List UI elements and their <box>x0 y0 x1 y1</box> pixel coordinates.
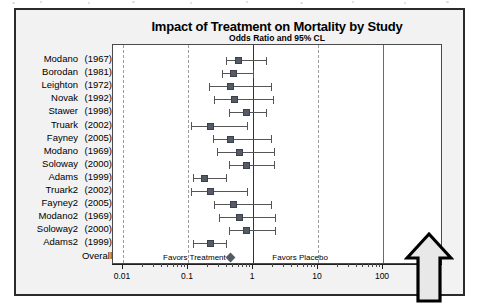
ci-cap-lower <box>229 227 230 235</box>
study-year: (2005) <box>78 196 112 209</box>
study-label: Novak(1992) <box>16 91 112 104</box>
x-axis-minor-tick <box>153 264 154 267</box>
forest-row <box>113 172 443 185</box>
point-estimate-marker <box>207 188 214 195</box>
x-axis-minor-tick <box>181 264 182 267</box>
forest-row <box>113 159 443 172</box>
ci-cap-upper <box>271 83 272 91</box>
ci-cap-upper <box>275 227 276 235</box>
x-axis-minor-tick <box>173 264 174 267</box>
x-axis-minor-tick <box>238 264 239 267</box>
confidence-interval-line <box>213 139 271 140</box>
confidence-interval-line <box>219 217 275 218</box>
top-edge-artifact <box>0 0 480 7</box>
ci-cap-lower <box>222 70 223 78</box>
confidence-interval-line <box>209 86 271 87</box>
x-axis-minor-tick <box>314 264 315 267</box>
x-axis-minor-tick <box>303 264 304 267</box>
study-name: Overall <box>82 249 112 262</box>
x-axis-tick-label: 100 <box>375 271 389 281</box>
study-year: (2002) <box>78 118 112 131</box>
point-estimate-marker <box>207 123 214 130</box>
x-axis-minor-tick <box>362 264 363 267</box>
ci-cap-lower <box>219 214 220 222</box>
speckle <box>352 1 354 3</box>
x-axis: 0.010.1110100 <box>112 264 442 286</box>
x-axis-minor-tick <box>307 264 308 267</box>
ci-cap-upper <box>275 214 276 222</box>
favors-placebo-label: Favors Placebo <box>272 253 328 262</box>
study-label: Leighton(1972) <box>16 78 112 91</box>
forest-row <box>113 224 443 237</box>
study-year: (2005) <box>78 131 112 144</box>
ci-cap-upper <box>226 240 227 248</box>
confidence-interval-line <box>229 230 276 231</box>
ci-cap-upper <box>274 148 275 156</box>
speckle <box>88 2 90 4</box>
study-name: Leighton <box>42 78 78 91</box>
x-axis-minor-tick <box>297 264 298 267</box>
up-arrow-icon <box>404 231 454 304</box>
forest-row <box>113 185 443 198</box>
ci-cap-upper <box>273 96 274 104</box>
study-year: (2000) <box>78 222 112 235</box>
confidence-interval-line <box>222 73 253 74</box>
study-name: Modano <box>44 52 78 65</box>
forest-row <box>113 133 443 146</box>
point-estimate-marker <box>201 175 208 182</box>
x-axis-major-tick <box>252 264 253 269</box>
x-axis-tick-label: 0.01 <box>114 271 131 281</box>
favors-treatment-label: Favors Treatment <box>163 253 226 262</box>
x-axis-minor-tick <box>161 264 162 267</box>
study-year: (1981) <box>78 65 112 78</box>
forest-plot-area <box>112 44 442 264</box>
point-estimate-marker <box>207 240 214 247</box>
x-axis-minor-tick <box>232 264 233 267</box>
study-label: Fayney(2005) <box>16 131 112 144</box>
point-estimate-marker <box>230 201 237 208</box>
ci-cap-lower <box>217 148 218 156</box>
ci-cap-lower <box>193 240 194 248</box>
speckle <box>446 1 449 3</box>
ci-cap-upper <box>271 201 272 209</box>
ci-cap-lower <box>191 188 192 196</box>
x-axis-minor-tick <box>291 264 292 267</box>
forest-row <box>113 80 443 93</box>
forest-row <box>113 54 443 67</box>
study-name: Stawer <box>48 104 78 117</box>
study-label: Fayney2(2005) <box>16 196 112 209</box>
x-axis-minor-tick <box>207 264 208 267</box>
ci-cap-upper <box>226 174 227 182</box>
ci-cap-lower <box>193 174 194 182</box>
ci-cap-upper <box>247 188 248 196</box>
ci-cap-upper <box>266 109 267 117</box>
point-estimate-marker <box>227 83 234 90</box>
speckle <box>132 1 135 3</box>
x-axis-minor-tick <box>167 264 168 267</box>
x-axis-major-tick <box>122 264 123 269</box>
confidence-interval-line <box>226 60 267 61</box>
x-axis-minor-tick <box>283 264 284 267</box>
ci-cap-lower <box>213 135 214 143</box>
ci-cap-lower <box>191 122 192 130</box>
study-label: Adams2(1999) <box>16 235 112 248</box>
x-axis-minor-tick <box>368 264 369 267</box>
x-axis-minor-tick <box>184 264 185 267</box>
speckle <box>40 1 42 3</box>
confidence-interval-line <box>191 191 247 192</box>
forest-row <box>113 67 443 80</box>
study-label: Modano2(1969) <box>16 209 112 222</box>
chart-title: Impact of Treatment on Mortality by Stud… <box>112 19 442 34</box>
x-axis-minor-tick <box>379 264 380 267</box>
study-name: Modano2 <box>38 209 78 222</box>
forest-row <box>113 198 443 211</box>
forest-row <box>113 93 443 106</box>
point-estimate-marker <box>243 227 250 234</box>
forest-row <box>113 237 443 250</box>
study-year: (1967) <box>78 52 112 65</box>
confidence-interval-line <box>214 99 273 100</box>
point-estimate-marker <box>231 96 238 103</box>
x-axis-minor-tick <box>246 264 247 267</box>
study-label: Soloway(2000) <box>16 157 112 170</box>
study-label: Borodan(1981) <box>16 65 112 78</box>
